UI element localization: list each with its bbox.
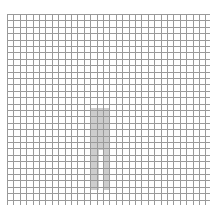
grid-canvas <box>0 0 219 221</box>
